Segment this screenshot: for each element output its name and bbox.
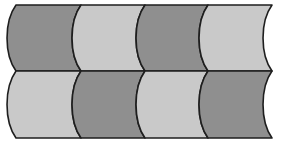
drum-segment-r2-c3-light	[136, 71, 208, 138]
drum-segment-r1-c1-dark	[7, 5, 81, 71]
drum-segments	[7, 5, 272, 138]
drum-segment-r1-c3-dark	[136, 5, 208, 71]
drum-segment-r1-c4-light	[199, 5, 272, 71]
drum-segment-r2-c1-light	[7, 71, 81, 138]
drum-segment-r2-c4-dark	[199, 71, 272, 138]
drum-diagram	[0, 0, 286, 143]
drum-segment-r1-c2-light	[72, 5, 145, 71]
drum-segment-r2-c2-dark	[72, 71, 145, 138]
